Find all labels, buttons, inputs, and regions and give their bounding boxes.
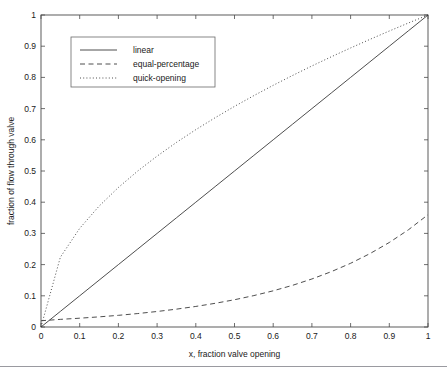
x-tick-label: 0.8 (345, 331, 357, 341)
x-tick-label: 1 (426, 331, 431, 341)
x-tick-label: 0.1 (74, 331, 86, 341)
legend-label-linear: linear (133, 45, 154, 55)
x-tick-label: 0.6 (267, 331, 279, 341)
x-tick-label: 0.7 (306, 331, 318, 341)
series-line-equal-percentage (41, 215, 428, 321)
y-tick-label: 0.5 (24, 166, 36, 176)
y-tick-label: 0.7 (24, 104, 36, 114)
x-axis-tick-labels: 00.10.20.30.40.50.60.70.80.91 (39, 331, 431, 341)
valve-characteristic-chart: 00.10.20.30.40.50.60.70.80.91 00.10.20.3… (0, 0, 447, 372)
x-tick-label: 0 (39, 331, 44, 341)
legend-label-equal-percentage: equal-percentage (133, 59, 199, 69)
x-tick-label: 0.2 (112, 331, 124, 341)
y-tick-label: 1 (31, 10, 36, 20)
y-tick-label: 0.8 (24, 72, 36, 82)
x-tick-label: 0.9 (383, 331, 395, 341)
y-tick-label: 0.2 (24, 260, 36, 270)
y-tick-label: 0 (31, 322, 36, 332)
y-tick-label: 0.3 (24, 228, 36, 238)
y-axis-tick-labels: 00.10.20.30.40.50.60.70.80.91 (24, 10, 36, 332)
y-axis-title: fraction of flow through valve (6, 117, 16, 225)
y-tick-label: 0.4 (24, 197, 36, 207)
legend: linearequal-percentagequick-opening (71, 37, 215, 87)
x-tick-label: 0.3 (151, 331, 163, 341)
x-tick-label: 0.4 (190, 331, 202, 341)
y-tick-label: 0.6 (24, 135, 36, 145)
x-tick-label: 0.5 (229, 331, 241, 341)
figure-canvas: 00.10.20.30.40.50.60.70.80.91 00.10.20.3… (0, 0, 447, 372)
y-tick-label: 0.1 (24, 291, 36, 301)
legend-label-quick-opening: quick-opening (133, 73, 186, 83)
y-tick-label: 0.9 (24, 41, 36, 51)
x-axis-title: x, fraction valve opening (189, 349, 281, 359)
